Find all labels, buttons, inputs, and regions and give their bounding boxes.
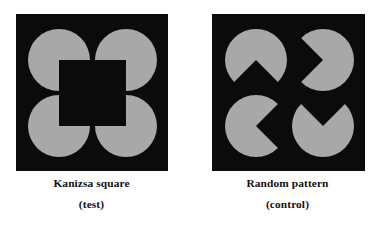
panel-kanizsa-square: Kanizsa square (test) — [3, 0, 180, 231]
caption-sub-kanizsa: (test) — [3, 197, 180, 211]
stimulus-field-kanizsa — [16, 14, 168, 171]
caption-random: Random pattern (control) — [199, 176, 376, 211]
caption-main-random: Random pattern — [199, 176, 376, 190]
caption-kanizsa: Kanizsa square (test) — [3, 176, 180, 211]
panel-random-pattern: Random pattern (control) — [199, 0, 376, 231]
stimulus-field-random — [212, 14, 365, 171]
stimulus-svg-random — [212, 14, 365, 171]
kanizsa-figure: Kanizsa square (test) Random pattern (co… — [0, 0, 379, 231]
caption-main-kanizsa: Kanizsa square — [3, 176, 180, 190]
caption-sub-random: (control) — [199, 197, 376, 211]
stimulus-svg-kanizsa — [16, 14, 168, 171]
